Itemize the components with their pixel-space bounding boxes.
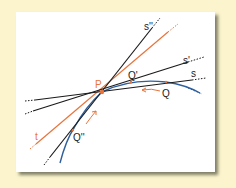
- label-Q: Q: [162, 88, 170, 99]
- arrow-Q-to-P-icon: [142, 88, 160, 92]
- curve: [60, 81, 200, 163]
- label-s-prime: s': [183, 55, 190, 66]
- point-Q-double-prime: [72, 129, 74, 131]
- secant-line-s: [25, 78, 206, 101]
- point-P: [100, 90, 104, 94]
- label-t: t: [35, 131, 38, 142]
- secant-line-s-prime: [25, 57, 204, 114]
- tangent-secant-diagram: P Q Q' Q'' s s' s'' t: [0, 0, 236, 188]
- label-s-double-prime: s'': [144, 21, 153, 32]
- label-Q-double-prime: Q'': [73, 132, 85, 143]
- tangent-line-t: [30, 24, 178, 149]
- arrow-Q-double-prime-to-P-icon: [86, 111, 96, 124]
- label-Q-prime: Q': [128, 70, 138, 81]
- point-Q-prime: [130, 81, 132, 83]
- point-Q: [165, 81, 167, 83]
- label-s: s: [191, 68, 196, 79]
- label-P: P: [95, 79, 102, 90]
